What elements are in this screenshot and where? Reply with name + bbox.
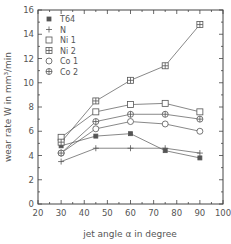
y-tick-label: 4 [29, 151, 34, 161]
y-tick-label: 14 [23, 29, 34, 39]
wear-rate-chart: 20304050607080901000246810121416 T64NNi … [0, 0, 231, 244]
x-tick-label: 80 [171, 208, 182, 218]
legend: T64NNi 1Ni 2Co 1Co 2 [46, 15, 78, 77]
y-tick-label: 2 [29, 175, 34, 185]
y-tick-label: 8 [29, 102, 34, 112]
x-tick-label: 30 [56, 208, 67, 218]
y-tick-label: 0 [29, 199, 34, 209]
legend-item: N [46, 26, 66, 35]
x-tick-label: 100 [215, 208, 231, 218]
legend-label: N [60, 26, 66, 35]
series-ni-2 [58, 22, 203, 146]
legend-label: Co 2 [60, 68, 78, 77]
legend-label: Co 1 [60, 57, 78, 66]
x-tick-label: 70 [148, 208, 159, 218]
legend-item: Ni 1 [46, 36, 76, 45]
x-tick-label: 60 [125, 208, 136, 218]
legend-label: Ni 2 [60, 47, 76, 56]
legend-item: Co 2 [46, 68, 78, 77]
y-tick-label: 6 [29, 126, 34, 136]
x-tick-label: 90 [194, 208, 205, 218]
legend-item: Ni 2 [46, 47, 76, 56]
legend-label: T64 [59, 15, 75, 24]
x-tick-label: 20 [33, 208, 44, 218]
legend-item: T64 [47, 15, 75, 24]
y-tick-label: 10 [23, 78, 34, 88]
legend-label: Ni 1 [60, 36, 76, 45]
legend-item: Co 1 [46, 57, 78, 66]
x-tick-label: 40 [79, 208, 90, 218]
y-tick-label: 16 [23, 5, 34, 15]
series-n [58, 145, 203, 164]
y-axis-label: wear rate W in mm³/min [3, 52, 13, 162]
data-series [58, 22, 203, 165]
x-axis-label: jet angle α in degree [82, 229, 177, 239]
x-tick-label: 50 [102, 208, 113, 218]
y-tick-label: 12 [23, 54, 34, 64]
